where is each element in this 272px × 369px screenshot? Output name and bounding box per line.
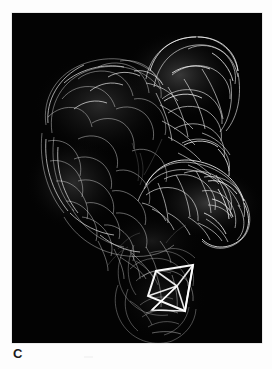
- colon-3d-render-panel[interactable]: [12, 13, 262, 343]
- page-speck: [84, 356, 93, 358]
- panel-label: C: [13, 346, 23, 362]
- figure-panel-c: C: [0, 0, 272, 369]
- colon-wireframe-render: [12, 13, 262, 343]
